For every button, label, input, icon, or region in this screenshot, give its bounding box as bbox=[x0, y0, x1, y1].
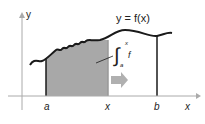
curve-label: y = f(x) bbox=[116, 12, 150, 24]
integral-lower-limit: a bbox=[120, 62, 124, 68]
x-axis-arrow-icon bbox=[196, 93, 201, 99]
y-axis-arrow-icon bbox=[19, 12, 25, 18]
tick-b-label: b bbox=[154, 101, 160, 112]
integral-upper-limit: x bbox=[124, 40, 129, 46]
integrand: f bbox=[128, 50, 132, 60]
area-under-curve-diagram: y = f(x) y x a x b ∫ x a f bbox=[0, 0, 205, 124]
x-axis-label: x bbox=[184, 101, 191, 112]
y-axis-label: y bbox=[26, 9, 31, 20]
right-arrow-icon bbox=[111, 72, 128, 88]
tick-a-label: a bbox=[44, 101, 50, 112]
tick-x-label: x bbox=[104, 101, 111, 112]
shaded-area bbox=[46, 40, 108, 96]
